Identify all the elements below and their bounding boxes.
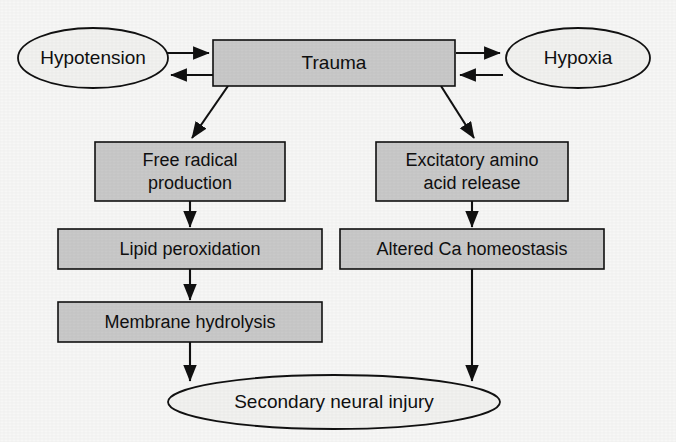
flowchart-diagram: Hypotension Trauma Hypoxia Free radical … bbox=[0, 0, 676, 442]
lipid-peroxidation-label: Lipid peroxidation bbox=[119, 239, 260, 259]
node-trauma[interactable]: Trauma bbox=[213, 40, 455, 86]
altered-ca-label: Altered Ca homeostasis bbox=[376, 239, 567, 259]
node-free-radical-production[interactable]: Free radical production bbox=[95, 142, 285, 201]
free-radical-label-line2: production bbox=[148, 173, 232, 193]
excitatory-label-line1: Excitatory amino bbox=[405, 150, 538, 170]
node-hypoxia[interactable]: Hypoxia bbox=[506, 28, 650, 88]
membrane-hydrolysis-label: Membrane hydrolysis bbox=[104, 312, 275, 332]
node-altered-ca-homeostasis[interactable]: Altered Ca homeostasis bbox=[340, 229, 604, 269]
flowchart-canvas: Hypotension Trauma Hypoxia Free radical … bbox=[0, 0, 676, 442]
hypoxia-label: Hypoxia bbox=[544, 47, 613, 68]
secondary-injury-label: Secondary neural injury bbox=[234, 391, 434, 412]
trauma-label: Trauma bbox=[302, 52, 367, 73]
node-excitatory-amino-acid-release[interactable]: Excitatory amino acid release bbox=[376, 142, 568, 201]
node-membrane-hydrolysis[interactable]: Membrane hydrolysis bbox=[58, 302, 322, 342]
node-lipid-peroxidation[interactable]: Lipid peroxidation bbox=[58, 229, 322, 269]
edge-trauma-to-excitatory bbox=[441, 86, 474, 138]
node-hypotension[interactable]: Hypotension bbox=[18, 28, 168, 88]
excitatory-label-line2: acid release bbox=[423, 173, 520, 193]
edge-trauma-to-free-radical bbox=[192, 86, 228, 138]
free-radical-label-line1: Free radical bbox=[142, 150, 237, 170]
hypotension-label: Hypotension bbox=[40, 47, 146, 68]
node-secondary-neural-injury[interactable]: Secondary neural injury bbox=[168, 375, 500, 429]
